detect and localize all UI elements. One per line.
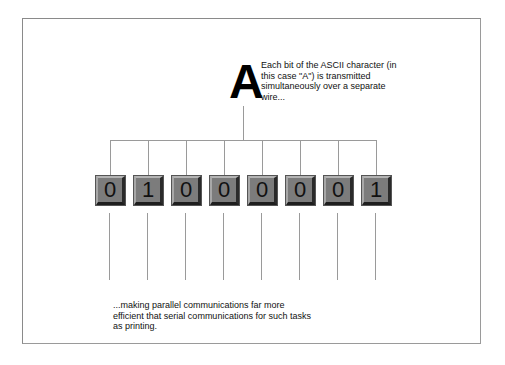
stem-wire	[243, 106, 244, 140]
bit-box-5: 0	[248, 176, 277, 205]
bottom-caption: ...making parallel communications far mo…	[113, 300, 313, 332]
upper-wire-7	[338, 140, 339, 175]
upper-wire-2	[148, 140, 149, 175]
bit-box-8: 1	[362, 176, 391, 205]
bit-box-6: 0	[286, 176, 315, 205]
bus-wire	[110, 140, 377, 141]
lower-wire-6	[299, 213, 300, 280]
bit-box-7: 0	[324, 176, 353, 205]
lower-wire-8	[375, 213, 376, 280]
top-caption: Each bit of the ASCII character (in this…	[261, 60, 401, 102]
lower-wire-5	[261, 213, 262, 280]
lower-wire-2	[147, 213, 148, 280]
upper-wire-5	[262, 140, 263, 175]
ascii-character: A	[229, 58, 263, 106]
lower-wire-3	[185, 213, 186, 280]
bit-box-3: 0	[172, 176, 201, 205]
lower-wire-7	[337, 213, 338, 280]
upper-wire-6	[300, 140, 301, 175]
upper-wire-3	[186, 140, 187, 175]
bit-box-2: 1	[134, 176, 163, 205]
upper-wire-4	[224, 140, 225, 175]
bit-box-1: 0	[96, 176, 125, 205]
upper-wire-1	[110, 140, 111, 175]
lower-wire-4	[223, 213, 224, 280]
lower-wire-1	[109, 213, 110, 280]
bit-box-4: 0	[210, 176, 239, 205]
upper-wire-8	[376, 140, 377, 175]
